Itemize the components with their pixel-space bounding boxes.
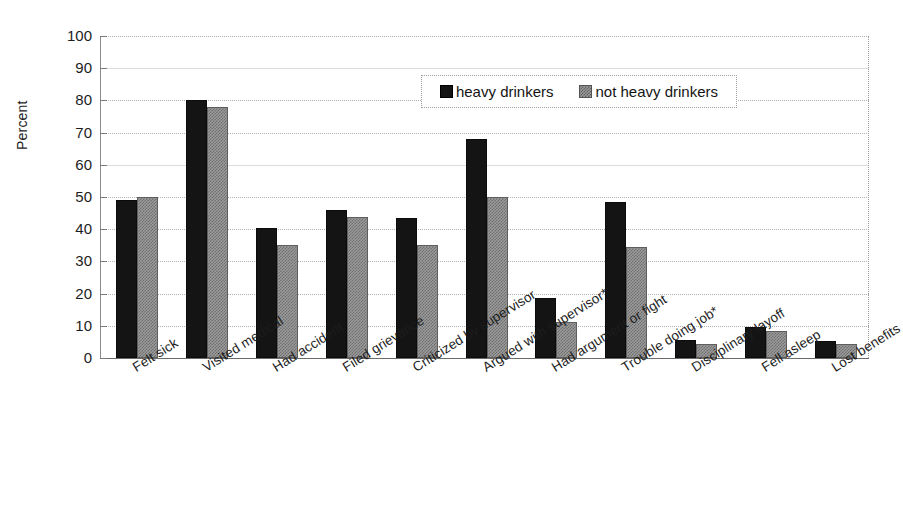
y-axis-tick-labels: 0102030405060708090100 bbox=[26, 36, 92, 358]
y-axis-tick-label: 10 bbox=[32, 317, 92, 334]
y-axis-tick-label: 40 bbox=[32, 220, 92, 237]
y-axis-tick-mark bbox=[100, 100, 107, 101]
bar-heavy-drinkers bbox=[186, 100, 207, 358]
y-axis-tick-mark bbox=[100, 36, 107, 37]
bar-not-heavy-drinkers bbox=[347, 217, 368, 358]
y-axis-tick-label: 60 bbox=[32, 156, 92, 173]
y-axis-tick-label: 0 bbox=[32, 349, 92, 366]
bar-group bbox=[326, 36, 368, 358]
y-axis-tick-mark bbox=[100, 197, 107, 198]
bar-group bbox=[815, 36, 857, 358]
bar-group bbox=[116, 36, 158, 358]
bar-heavy-drinkers bbox=[116, 200, 137, 358]
bar-not-heavy-drinkers bbox=[487, 197, 508, 358]
legend-label-not-heavy-drinkers: not heavy drinkers bbox=[595, 83, 718, 100]
y-axis-tick-mark bbox=[100, 133, 107, 134]
y-axis-tick-label: 20 bbox=[32, 285, 92, 302]
y-axis-tick-mark bbox=[100, 165, 107, 166]
bar-group bbox=[256, 36, 298, 358]
x-axis-category-labels: Felt sickVisited medicalHad accidentFile… bbox=[100, 362, 869, 512]
bar-not-heavy-drinkers bbox=[207, 107, 228, 358]
y-axis-tick-mark bbox=[100, 294, 107, 295]
y-axis-tick-label: 50 bbox=[32, 188, 92, 205]
y-axis-tick-mark bbox=[100, 68, 107, 69]
bar-heavy-drinkers bbox=[815, 341, 836, 358]
y-axis-tick-label: 30 bbox=[32, 252, 92, 269]
legend-swatch-heavy-drinkers bbox=[440, 85, 453, 98]
y-axis-tick-label: 100 bbox=[32, 27, 92, 44]
y-axis-tick-label: 90 bbox=[32, 59, 92, 76]
legend-item-heavy-drinkers: heavy drinkers bbox=[440, 83, 554, 100]
y-axis-tick-label: 80 bbox=[32, 91, 92, 108]
bar-not-heavy-drinkers bbox=[277, 245, 298, 358]
bar-not-heavy-drinkers bbox=[137, 197, 158, 358]
bar-heavy-drinkers bbox=[675, 340, 696, 358]
bar-group bbox=[186, 36, 228, 358]
y-axis-tick-mark bbox=[100, 229, 107, 230]
legend-label-heavy-drinkers: heavy drinkers bbox=[456, 83, 554, 100]
legend-swatch-not-heavy-drinkers bbox=[579, 85, 592, 98]
bar-not-heavy-drinkers bbox=[417, 245, 438, 358]
chart-legend: heavy drinkers not heavy drinkers bbox=[421, 75, 737, 108]
y-axis-tick-mark bbox=[100, 326, 107, 327]
y-axis-tick-mark bbox=[100, 261, 107, 262]
y-axis-tick-label: 70 bbox=[32, 124, 92, 141]
y-axis-tick-mark bbox=[100, 358, 107, 359]
legend-item-not-heavy-drinkers: not heavy drinkers bbox=[579, 83, 718, 100]
